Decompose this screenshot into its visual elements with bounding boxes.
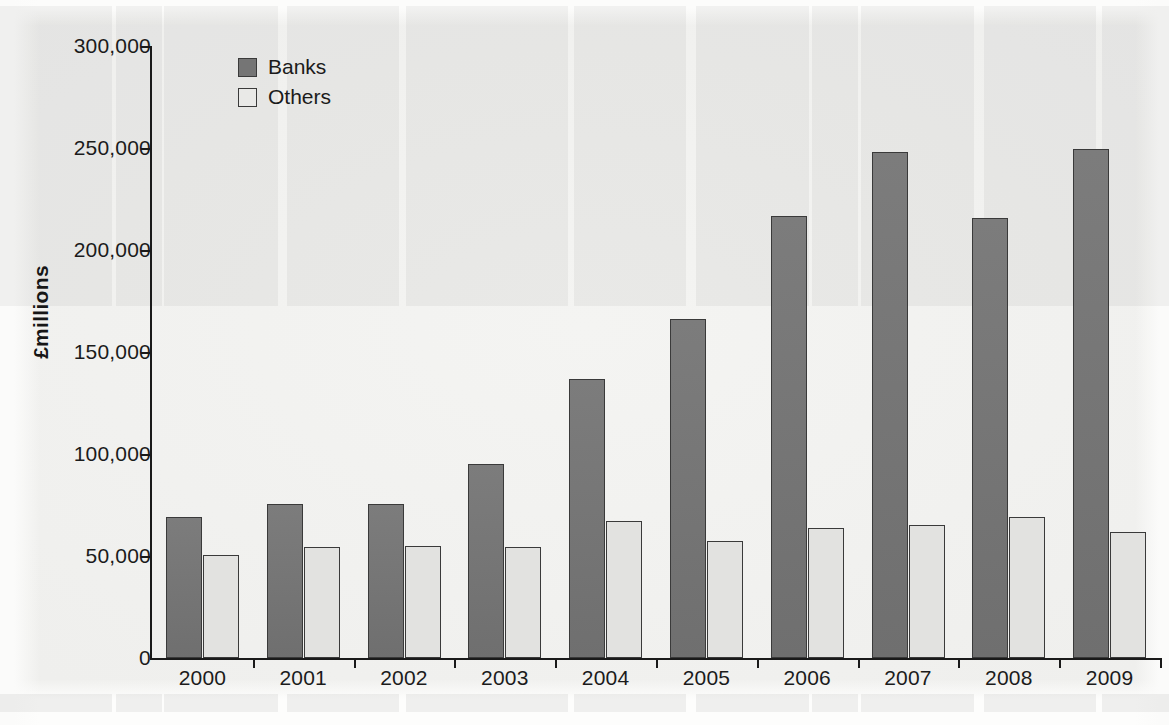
bar-others-2001 [304,547,340,658]
x-category-label-2003: 2003 [454,666,555,690]
bar-others-2006 [808,528,844,658]
bar-banks-2002 [368,504,404,658]
x-category-label-2001: 2001 [253,666,354,690]
x-category-label-2005: 2005 [656,666,757,690]
y-tick-mark [141,454,151,456]
bar-others-2009 [1110,532,1146,658]
bar-group [1073,46,1146,658]
dark-gray-swatch-icon [238,58,257,77]
bar-group [771,46,844,658]
y-tick-mark [141,46,151,48]
bar-group [267,46,340,658]
bar-group [468,46,541,658]
bar-banks-2008 [972,218,1008,658]
bar-others-2008 [1009,517,1045,658]
bar-banks-2001 [267,504,303,658]
bar-others-2003 [505,547,541,658]
chart-legend: Banks Others [238,52,331,112]
y-tick-label: 100,000 [33,442,151,466]
x-axis-line [150,658,1160,660]
bar-group [569,46,642,658]
plot-area [152,46,1160,658]
bar-banks-2000 [166,517,202,658]
x-category-label-2000: 2000 [152,666,253,690]
x-category-label-2004: 2004 [555,666,656,690]
x-tick-mark [1160,658,1162,668]
legend-item-others: Others [238,82,331,112]
bar-group [670,46,743,658]
y-tick-mark [141,250,151,252]
legend-item-banks: Banks [238,52,331,82]
x-category-label-2002: 2002 [354,666,455,690]
bar-group [368,46,441,658]
bar-banks-2006 [771,216,807,658]
bar-others-2004 [606,521,642,658]
bar-others-2000 [203,555,239,658]
y-tick-label: 300,000 [33,34,151,58]
bar-banks-2003 [468,464,504,658]
bar-others-2007 [909,525,945,658]
y-tick-label: 150,000 [33,340,151,364]
y-tick-label: 0 [33,646,151,670]
bar-others-2005 [707,541,743,658]
y-tick-mark [141,352,151,354]
bar-chart: £millions 050,000100,000150,000200,00025… [0,0,1169,725]
x-category-label-2006: 2006 [757,666,858,690]
light-gray-swatch-icon [238,88,257,107]
bar-group [972,46,1045,658]
y-tick-label: 50,000 [33,544,151,568]
bar-banks-2009 [1073,149,1109,658]
bar-banks-2005 [670,319,706,658]
x-category-label-2008: 2008 [958,666,1059,690]
bar-banks-2004 [569,379,605,658]
legend-label-banks: Banks [268,55,326,79]
y-tick-label: 250,000 [33,136,151,160]
y-tick-label: 200,000 [33,238,151,262]
y-tick-mark [141,556,151,558]
x-category-label-2007: 2007 [858,666,959,690]
legend-label-others: Others [268,85,331,109]
y-tick-mark [141,148,151,150]
bar-banks-2007 [872,152,908,658]
bar-group [166,46,239,658]
bar-others-2002 [405,546,441,658]
x-category-label-2009: 2009 [1059,666,1160,690]
bar-group [872,46,945,658]
